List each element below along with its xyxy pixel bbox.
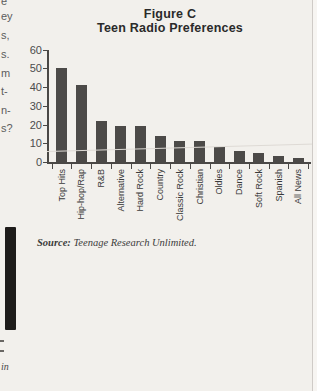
x-axis-tick [308,164,309,169]
photo-edge [5,227,16,330]
x-axis [47,162,311,164]
x-axis-tick [288,164,289,169]
x-axis-label: All News [292,169,304,249]
y-axis-tick [43,162,47,163]
x-axis-tick [249,164,250,169]
x-axis-label: Spanish [273,169,285,249]
bar [194,141,205,162]
bar [234,151,245,162]
edge-mark [0,350,4,352]
y-axis-tick [43,106,47,107]
x-axis-label: Soft Rock [253,169,265,249]
x-axis-tick [91,164,92,169]
edge-mark [0,340,4,342]
x-axis-tick [210,164,211,169]
source-caption: Source: Teenage Research Unlimited. [37,237,197,248]
y-axis-label: 60 [18,45,42,56]
y-axis [47,50,49,164]
bar-chart: 0102030405060Top HitsHip-hop/RapR&BAlter… [0,0,317,260]
x-axis-tick [229,164,230,169]
bar [293,158,304,162]
source-text: Teenage Research Unlimited. [71,237,197,248]
x-axis-label: Dance [233,169,245,249]
y-axis-label: 30 [18,101,42,112]
y-axis-label: 40 [18,82,42,93]
y-axis-tick [43,143,47,144]
x-axis-label: Oldies [213,169,225,249]
x-axis-tick [111,164,112,169]
x-axis-tick [131,164,132,169]
bar [214,147,225,162]
y-axis-tick [43,50,47,51]
x-axis-tick [71,164,72,169]
x-axis-tick [170,164,171,169]
page-edge-strip [313,0,317,391]
y-axis-label: 20 [18,120,42,131]
bar [135,126,146,162]
y-axis-tick [43,87,47,88]
margin-note-fragment: in [1,361,9,372]
bar [174,141,185,162]
y-axis-label: 0 [18,157,42,168]
source-label: Source: [37,237,71,248]
bar [273,156,284,162]
bar [253,153,264,162]
y-axis-label: 50 [18,63,42,74]
x-axis-tick [269,164,270,169]
x-axis-tick [190,164,191,169]
bar [96,121,107,162]
x-axis-tick [150,164,151,169]
scanned-book-page: eeys,s.mt-n-s? Figure C Teen Radio Prefe… [0,0,317,391]
y-axis-tick [43,68,47,69]
y-axis-tick [43,125,47,126]
y-axis-label: 10 [18,138,42,149]
x-axis-tick [52,164,53,169]
bar [56,68,67,162]
bar [115,126,126,162]
